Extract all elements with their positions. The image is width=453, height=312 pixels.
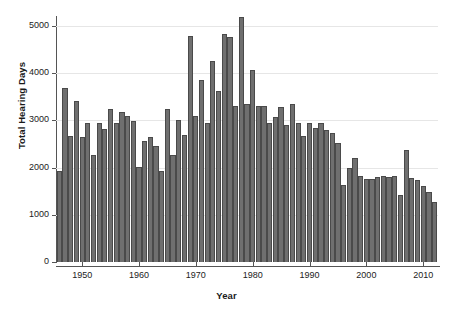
x-tick-label: 1950 [65, 270, 99, 280]
bar [108, 109, 113, 262]
y-tick: 1000 [12, 215, 56, 216]
bar [421, 186, 426, 262]
bar [131, 121, 136, 263]
bar [341, 185, 346, 262]
bar [392, 176, 397, 262]
bar [239, 17, 244, 262]
bar [170, 155, 175, 262]
y-tick: 4000 [12, 73, 56, 74]
bar [222, 34, 227, 262]
bar [261, 106, 266, 262]
y-axis-title: Total Hearing Days [16, 31, 27, 181]
x-tick-mark [423, 262, 424, 266]
bar [301, 136, 306, 262]
bar [227, 37, 232, 262]
x-tick-label: 1990 [293, 270, 327, 280]
bar [369, 179, 374, 262]
bar [233, 106, 238, 262]
bar [398, 195, 403, 262]
x-tick-mark [366, 262, 367, 266]
bar [85, 123, 90, 262]
y-tick-label: 0 [44, 256, 49, 266]
bar [352, 158, 357, 262]
bar [347, 168, 352, 262]
bar [165, 109, 170, 262]
bar [176, 120, 181, 262]
bar [330, 133, 335, 262]
bar [125, 116, 130, 262]
bar [74, 101, 79, 262]
bar [250, 70, 255, 262]
bar [97, 123, 102, 262]
bar [432, 202, 437, 262]
bar [278, 107, 283, 262]
bar [102, 129, 107, 262]
bar [205, 123, 210, 262]
bar [91, 155, 96, 262]
bar [136, 167, 141, 262]
bar [307, 123, 312, 262]
y-tick: 3000 [12, 120, 56, 121]
x-tick-mark [310, 262, 311, 266]
bar [256, 106, 261, 262]
y-tick-label: 5000 [29, 20, 49, 30]
bar [62, 88, 67, 262]
x-axis-title: Year [0, 290, 453, 301]
bar [426, 192, 431, 262]
bar [267, 123, 272, 262]
bar [153, 146, 158, 262]
bar [57, 171, 62, 262]
bar [273, 117, 278, 262]
bar [119, 112, 124, 262]
bar [318, 123, 323, 262]
bar [404, 150, 409, 262]
bar [193, 116, 198, 262]
bar [386, 177, 391, 262]
x-tick-label: 2010 [406, 270, 440, 280]
bar [80, 137, 85, 262]
bar [216, 91, 221, 262]
x-tick-mark [82, 262, 83, 266]
y-tick: 0 [12, 262, 56, 263]
bar [381, 176, 386, 262]
bar [142, 141, 147, 262]
bar [290, 104, 295, 262]
bar [335, 143, 340, 262]
bar [188, 36, 193, 262]
x-tick-label: 1960 [122, 270, 156, 280]
bar [284, 125, 289, 262]
y-tick: 2000 [12, 168, 56, 169]
x-tick-label: 1970 [179, 270, 213, 280]
y-tick-label: 4000 [29, 67, 49, 77]
bar [409, 178, 414, 262]
bar [148, 137, 153, 262]
bars-container [56, 12, 438, 262]
bar [159, 171, 164, 263]
y-tick: 5000 [12, 26, 56, 27]
bar [415, 180, 420, 262]
y-tick-label: 3000 [29, 114, 49, 124]
x-axis-spine [56, 266, 440, 267]
x-tick-mark [139, 262, 140, 266]
bar [313, 128, 318, 262]
bar [114, 123, 119, 262]
bar [199, 80, 204, 262]
bar [210, 61, 215, 262]
x-tick-mark [253, 262, 254, 266]
bar [68, 136, 73, 262]
x-tick-label: 1980 [236, 270, 270, 280]
bar [375, 177, 380, 262]
x-tick-label: 2000 [349, 270, 383, 280]
bar [244, 104, 249, 262]
plot-area: 010002000300040005000 195019601970198019… [56, 12, 438, 262]
y-tick-label: 2000 [29, 162, 49, 172]
y-tick-label: 1000 [29, 209, 49, 219]
x-tick-mark [196, 262, 197, 266]
bar [358, 176, 363, 262]
bar [296, 123, 301, 262]
bar [364, 179, 369, 262]
y-tick-mark [52, 262, 56, 263]
chart-figure: Total Hearing Days Year 0100020003000400… [0, 0, 453, 312]
bar [324, 130, 329, 262]
bar [182, 135, 187, 262]
